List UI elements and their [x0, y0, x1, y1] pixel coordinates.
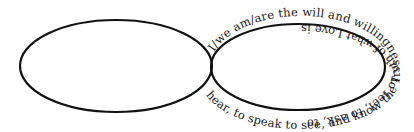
left-loop: [20, 20, 212, 112]
infinity-diagram: hear, to speak to see, and know the Trut…: [0, 0, 414, 132]
infinity-svg: hear, to speak to see, and know the Trut…: [0, 0, 414, 132]
